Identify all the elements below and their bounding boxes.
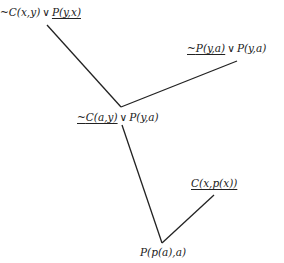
literal-2: P(y,a) [129, 111, 158, 123]
node-clause-5: P(p(a),a) [140, 246, 186, 258]
negation-symbol: ~ [187, 42, 196, 54]
literal-2: P(y,a) [237, 42, 266, 54]
or-operator: ∨ [118, 111, 130, 123]
negation-symbol: ~ [0, 6, 9, 18]
edge-n2-n3 [121, 61, 237, 107]
edge-n4-n5 [162, 195, 214, 243]
or-operator: ∨ [40, 6, 52, 18]
node-clause-1: ~C(x,y)∨P(y,x) [0, 6, 81, 18]
literal-1-resolved: P(y,a) [196, 42, 225, 54]
node-clause-4: C(x,p(x)) [191, 177, 237, 189]
or-operator: ∨ [225, 42, 237, 54]
edge-n3-n5 [122, 125, 162, 243]
literal-2-resolved: P(y,x) [52, 6, 81, 18]
node-clause-2: ~P(y,a)∨P(y,a) [187, 42, 266, 54]
node-clause-3: ~C(a,y)∨P(y,a) [77, 111, 159, 123]
literal-1: C(x,y) [9, 6, 40, 18]
literal-1-resolved: C(a,y) [86, 111, 118, 123]
edges-layer [0, 0, 284, 263]
literal-1-resolved: C(x,p(x)) [191, 177, 237, 189]
literal-1: P(p(a),a) [140, 246, 186, 258]
negation-symbol: ~ [77, 111, 86, 123]
edge-n1-n3 [47, 25, 121, 107]
